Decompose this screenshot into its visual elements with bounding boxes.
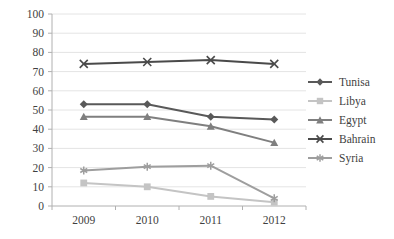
legend-label-tunisa: Tunisa [339, 75, 370, 89]
y-tick-label: 40 [33, 123, 45, 135]
legend-item-libya[interactable]: Libya [307, 91, 393, 110]
y-tick-label: 90 [33, 27, 45, 39]
y-tick-label: 50 [33, 104, 45, 116]
y-axis-ticks [48, 14, 52, 206]
gridlines [52, 14, 306, 187]
data-point-square-marker [80, 180, 87, 187]
y-tick-label: 0 [38, 200, 44, 212]
y-tick-label: 60 [33, 85, 45, 97]
legend-label-syria: Syria [339, 151, 363, 165]
legend-key-syria [307, 151, 333, 165]
x-tick-label: 2011 [199, 214, 222, 226]
y-tick-label: 30 [33, 142, 45, 154]
data-point-square-marker [144, 183, 151, 190]
legend-key-egypt [307, 113, 333, 127]
series-tunisa [80, 100, 279, 123]
y-tick-label: 10 [33, 181, 45, 193]
x-axis-tick-labels: 2009201020112012 [72, 214, 286, 226]
x-axis-ticks [52, 206, 306, 210]
series-bahrain [80, 56, 279, 68]
y-tick-label: 70 [33, 66, 45, 78]
chart-legend: Tunisa Libya Egypt Bahrain [307, 72, 393, 167]
data-point-diamond-marker [270, 116, 278, 124]
legend-label-libya: Libya [339, 94, 366, 108]
y-tick-label: 20 [33, 162, 45, 174]
line-chart: 0102030405060708090100 2009201020112012 … [0, 0, 394, 239]
data-point-diamond-marker [207, 113, 215, 121]
x-tick-label: 2012 [263, 214, 286, 226]
x-tick-label: 2010 [136, 214, 159, 226]
legend-item-egypt[interactable]: Egypt [307, 110, 393, 129]
data-point-diamond-marker [80, 100, 88, 108]
series-libya [80, 180, 277, 206]
legend-item-syria[interactable]: Syria [307, 148, 393, 167]
legend-key-libya [307, 94, 333, 108]
y-axis-tick-labels: 0102030405060708090100 [27, 8, 45, 212]
legend-key-tunisa [307, 75, 333, 89]
legend-label-egypt: Egypt [339, 113, 366, 127]
legend-key-bahrain [307, 132, 333, 146]
x-tick-label: 2009 [72, 214, 95, 226]
y-tick-label: 100 [27, 8, 45, 20]
legend-label-bahrain: Bahrain [339, 132, 375, 146]
data-series-group [80, 56, 279, 205]
legend-item-tunisa[interactable]: Tunisa [307, 72, 393, 91]
y-tick-label: 80 [33, 46, 45, 58]
legend-item-bahrain[interactable]: Bahrain [307, 129, 393, 148]
data-point-diamond-marker [143, 100, 151, 108]
data-point-square-marker [207, 193, 214, 200]
